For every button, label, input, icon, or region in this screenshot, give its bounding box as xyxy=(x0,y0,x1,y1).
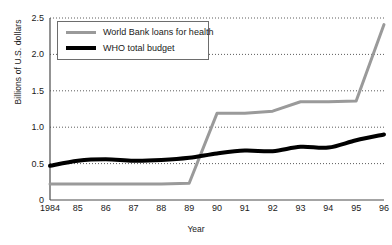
x-axis-tick-label: 85 xyxy=(73,203,83,213)
legend-swatch-line-icon xyxy=(66,46,96,50)
x-axis-tick-label: 96 xyxy=(379,203,389,213)
series-line xyxy=(50,134,384,165)
legend-label: WHO total budget xyxy=(103,43,175,53)
x-axis-tick-label: 94 xyxy=(323,203,333,213)
legend-swatch-line-icon xyxy=(66,31,96,34)
x-axis-tick-label: 95 xyxy=(351,203,361,213)
chart-legend: World Bank loans for health WHO total bu… xyxy=(57,21,209,60)
x-axis-tick-label: 87 xyxy=(128,203,138,213)
y-axis-title: Billions of U.S. dollars xyxy=(13,0,23,132)
x-axis-tick-label: 91 xyxy=(240,203,250,213)
x-axis-title: Year xyxy=(0,224,392,234)
x-axis-tick-label: 88 xyxy=(156,203,166,213)
x-axis-tick-label: 92 xyxy=(268,203,278,213)
y-axis-tick-label: 0.5 xyxy=(18,159,44,169)
x-axis-tick-label: 1984 xyxy=(40,203,60,213)
legend-label: World Bank loans for health xyxy=(103,27,213,37)
x-axis-tick-label: 90 xyxy=(212,203,222,213)
x-axis-tick-label: 93 xyxy=(295,203,305,213)
legend-item-who: WHO total budget xyxy=(66,43,175,53)
legend-item-world-bank: World Bank loans for health xyxy=(66,27,213,37)
line-chart: 00.51.01.52.02.5 19848586878889909192939… xyxy=(0,0,392,245)
x-axis-tick-label: 89 xyxy=(184,203,194,213)
x-axis-tick-label: 86 xyxy=(101,203,111,213)
